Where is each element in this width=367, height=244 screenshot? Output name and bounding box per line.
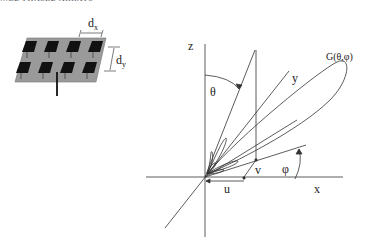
- u-arrowhead-left: [206, 179, 210, 183]
- x-axis-label: x: [314, 182, 320, 196]
- pattern-label: G(θ,φ): [326, 51, 353, 63]
- main-lobe: [207, 61, 347, 174]
- diagram-svg: dx dy: [0, 0, 367, 244]
- diagram-canvas: …ED PHASED ARRAYS: [0, 0, 367, 244]
- y-axis: [165, 71, 289, 228]
- patch-array: dx dy: [15, 16, 126, 96]
- z-axis-label: z: [188, 39, 193, 53]
- dx-dimension: dx: [79, 16, 103, 37]
- radiation-pattern-figure: [146, 44, 347, 237]
- dx-label: dx: [88, 16, 98, 32]
- cropped-header-text: …ED PHASED ARRAYS: [0, 0, 200, 4]
- v-endpoint: [255, 159, 257, 161]
- theta-label: θ: [210, 85, 216, 99]
- dy-dimension: dy: [104, 47, 126, 71]
- u-endpoint: [243, 177, 245, 179]
- u-label: u: [224, 182, 230, 196]
- phi-label: φ: [282, 162, 289, 176]
- phi-arrowhead: [296, 149, 302, 154]
- dy-label: dy: [116, 53, 126, 69]
- v-label: v: [255, 163, 261, 177]
- y-axis-label: y: [292, 71, 298, 85]
